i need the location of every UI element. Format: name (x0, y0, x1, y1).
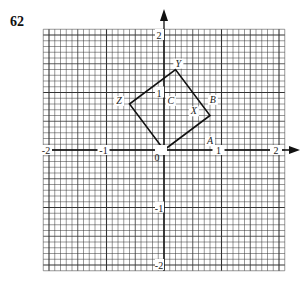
x-tick-label: -1 (99, 145, 107, 156)
y-axis-arrow-icon (160, 9, 168, 21)
point-label-c: C (168, 95, 175, 106)
y-tick-label: 2 (157, 30, 162, 41)
axes (43, 9, 300, 271)
y-tick-label: -2 (155, 260, 163, 271)
point-label-b: B (210, 94, 216, 105)
point-label-x: X (190, 105, 198, 116)
x-tick-label: 0 (155, 152, 160, 163)
point-label-a: A (206, 135, 214, 146)
x-tick-label: 1 (216, 145, 221, 156)
x-tick-label: -2 (42, 145, 50, 156)
coordinate-grid-diagram: -2-101221-1-2 YZCBXA (0, 0, 307, 286)
y-tick-label: 1 (157, 88, 162, 99)
x-tick-label: 2 (274, 145, 279, 156)
point-label-z: Z (116, 95, 122, 106)
x-axis-arrow-icon (289, 146, 300, 154)
y-tick-label: -1 (155, 203, 163, 214)
